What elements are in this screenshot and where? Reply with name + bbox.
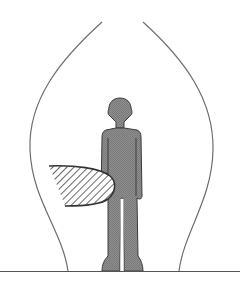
envelope-right-curve xyxy=(143,22,213,271)
person-head xyxy=(108,98,132,128)
diagram-svg xyxy=(0,0,240,282)
envelope-left-curve xyxy=(30,22,102,271)
person-leg-gap xyxy=(121,199,124,271)
diagram-canvas: Person standing inside a bell-shaped env… xyxy=(0,0,240,282)
